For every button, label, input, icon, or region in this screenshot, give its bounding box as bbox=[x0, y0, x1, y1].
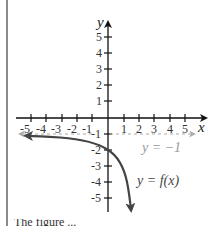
function-curve-right bbox=[108, 150, 131, 210]
x-axis-label: x bbox=[197, 119, 205, 135]
y-tick-label-neg3: -3 bbox=[91, 159, 101, 173]
graph-figure: y x 5 4 3 2 1 -1 -2 -3 -4 -5 -5 -4 -3 -2… bbox=[0, 0, 222, 226]
y-tick-label-3: 3 bbox=[96, 62, 102, 76]
y-tick-label-neg1: -1 bbox=[91, 127, 101, 141]
caption-text-fragment: The figure ... bbox=[14, 219, 214, 226]
y-tick-label-1: 1 bbox=[96, 94, 102, 108]
y-tick-label-2: 2 bbox=[96, 78, 102, 92]
y-tick-label-4: 4 bbox=[96, 46, 102, 60]
y-axis-label: y bbox=[95, 14, 104, 30]
asymptote-label: y = −1 bbox=[140, 140, 181, 155]
y-tick-label-neg5: -5 bbox=[91, 191, 101, 205]
curve-label: y = f(x) bbox=[135, 173, 179, 189]
y-tick-label-neg4: -4 bbox=[91, 175, 101, 189]
y-tick-label-5: 5 bbox=[96, 30, 102, 44]
